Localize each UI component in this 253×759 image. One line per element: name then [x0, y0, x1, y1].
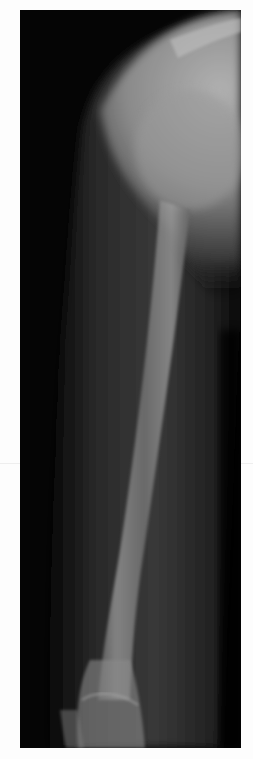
xray-render: [20, 10, 241, 748]
xray-image: [20, 10, 241, 748]
